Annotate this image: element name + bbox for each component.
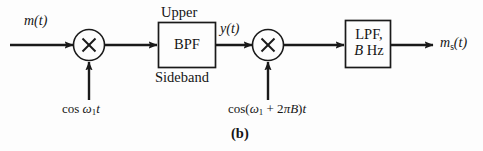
lpf-label: LPF, B Hz <box>347 26 391 58</box>
osc1-cos: cos <box>62 101 83 116</box>
oscillator2-label: cos(ω1 + 2πB)t <box>228 102 306 117</box>
osc2-plus: + 2 <box>263 101 283 116</box>
lpf-bandwidth-unit: Hz <box>363 42 384 58</box>
figure-part-text: (b) <box>231 125 249 141</box>
intermediate-signal-text: y(t) <box>220 21 239 36</box>
osc1-omega: ω <box>83 101 92 116</box>
bpf-sideband-label: Sideband <box>155 70 209 85</box>
output-signal-arg: (t) <box>454 35 467 50</box>
lpf-bandwidth-symbol: B <box>354 42 363 58</box>
osc2-time: t <box>302 101 306 116</box>
figure-part-label: (b) <box>231 126 249 141</box>
intermediate-signal-label: y(t) <box>220 22 239 36</box>
input-signal-label: m(t) <box>24 14 47 28</box>
bpf-upper-text: Upper <box>161 4 197 20</box>
bpf-sideband-text: Sideband <box>155 69 209 85</box>
osc1-time: t <box>96 101 100 116</box>
multiplier1-x-icon <box>83 39 96 52</box>
output-signal-base: m <box>440 35 450 50</box>
multiplier2-x-icon <box>262 39 275 52</box>
osc2-omega: ω <box>250 101 259 116</box>
osc2-cos-open: cos( <box>228 101 250 116</box>
lpf-label-line2: B Hz <box>347 42 391 58</box>
input-signal-text: m(t) <box>24 13 47 28</box>
oscillator1-label: cos ω1t <box>62 102 100 117</box>
bpf-upper-label: Upper <box>161 5 197 20</box>
osc2-bandwidth: B <box>290 101 298 116</box>
lpf-label-line1: LPF, <box>347 26 391 42</box>
output-signal-label: ms(t) <box>440 36 467 52</box>
figure-block-diagram: m(t) BPF Upper Sideband y(t) LPF, B Hz c… <box>0 0 483 151</box>
bpf-label: BPF <box>163 36 211 52</box>
bpf-label-text: BPF <box>174 36 200 52</box>
